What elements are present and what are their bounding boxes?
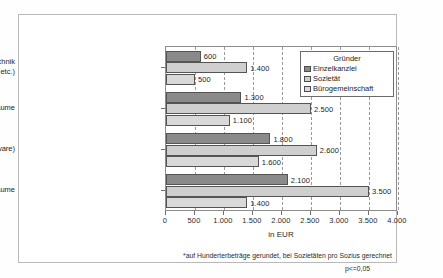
- bar-value-label: 500: [198, 75, 211, 84]
- x-axis-tick-label: 4.000: [387, 216, 406, 225]
- x-axis-tick-label: 500: [188, 216, 201, 225]
- gridline: [398, 47, 399, 210]
- bar: [166, 62, 247, 73]
- chart-figure: 6001.4005001.3002.5001.1001.8002.6001.60…: [0, 0, 443, 278]
- x-axis-tick: [368, 211, 369, 215]
- bar: [166, 133, 270, 144]
- bar-value-label: 2.500: [314, 105, 333, 114]
- bar: [166, 174, 288, 185]
- legend-swatch-icon-einzelkanzlei: [304, 66, 311, 72]
- footnote: *auf Hunderterbeträge gerundet, bei Sozi…: [165, 252, 410, 259]
- legend-label-einzelkanzlei: Einzelkanzlei: [313, 64, 357, 73]
- x-axis-tick: [194, 211, 195, 215]
- legend-item-sozietaet[interactable]: Sozietät: [304, 74, 390, 83]
- legend: Gründer Einzelkanzlei Sozietät Bürogemei…: [300, 51, 394, 97]
- bar-value-label: 2.600: [320, 146, 339, 155]
- bar-value-label: 3.500: [372, 187, 391, 196]
- category-label-line: EDV-Anlage (Hard- / Software): [0, 144, 15, 154]
- bar-value-label: 600: [204, 52, 217, 61]
- legend-item-buerogemeinschaft[interactable]: Bürogemeinschaft: [304, 84, 390, 93]
- x-axis-tick-label: 0: [163, 216, 167, 225]
- bar: [166, 115, 230, 126]
- significance-note: p<=0,05: [345, 265, 370, 272]
- bar: [166, 197, 247, 208]
- figure-frame: 6001.4005001.3002.5001.1001.8002.6001.60…: [18, 14, 397, 263]
- x-axis-tick-label: 3.500: [358, 216, 377, 225]
- bar: [166, 51, 201, 62]
- x-axis-tick: [310, 211, 311, 215]
- y-axis-tick: [161, 67, 165, 68]
- x-axis-tick: [223, 211, 224, 215]
- x-axis-tick-label: 1.500: [242, 216, 261, 225]
- bar-value-label: 1.600: [262, 158, 281, 167]
- legend-swatch-icon-buerogemeinschaft: [304, 86, 311, 92]
- legend-label-buerogemeinschaft: Bürogemeinschaft: [313, 84, 373, 93]
- bar: [166, 186, 369, 197]
- legend-swatch-icon-sozietaet: [304, 76, 311, 82]
- bar-value-label: 2.100: [291, 176, 310, 185]
- y-axis-tick: [161, 190, 165, 191]
- category-label: Einrichtung Büroräume: [0, 185, 15, 195]
- category-label: Renovierung Büroräume: [0, 103, 15, 113]
- x-axis-tick: [252, 211, 253, 215]
- category-label: sonst. Bürotechnik(Telefon, Kopiergerät …: [0, 57, 15, 77]
- y-axis-tick: [161, 149, 165, 150]
- bar: [166, 74, 195, 85]
- x-axis-tick-label: 2.500: [300, 216, 319, 225]
- x-axis-tick: [281, 211, 282, 215]
- bar-value-label: 1.300: [244, 93, 263, 102]
- bar-value-label: 1.400: [250, 64, 269, 73]
- x-axis-title: in EUR: [165, 230, 397, 239]
- x-axis-tick-label: 3.000: [329, 216, 348, 225]
- bar-value-label: 1.400: [250, 199, 269, 208]
- bar-value-label: 1.100: [233, 116, 252, 125]
- legend-label-sozietaet: Sozietät: [313, 74, 340, 83]
- bar: [166, 156, 259, 167]
- bar-value-label: 1.800: [273, 135, 292, 144]
- x-axis-tick: [397, 211, 398, 215]
- x-axis-tick: [165, 211, 166, 215]
- x-axis-tick: [339, 211, 340, 215]
- bar: [166, 92, 241, 103]
- category-label-line: sonst. Bürotechnik: [0, 57, 15, 67]
- x-axis-tick-label: 2.000: [271, 216, 290, 225]
- bar: [166, 103, 311, 114]
- x-axis-tick-label: 1.000: [213, 216, 232, 225]
- category-label-line: (Telefon, Kopiergerät etc.): [0, 67, 15, 77]
- y-axis-tick: [161, 108, 165, 109]
- legend-title: Gründer: [304, 54, 390, 63]
- category-label-line: Einrichtung Büroräume: [0, 185, 15, 195]
- bar: [166, 145, 317, 156]
- category-label: EDV-Anlage (Hard- / Software): [0, 144, 15, 154]
- legend-item-einzelkanzlei[interactable]: Einzelkanzlei: [304, 64, 390, 73]
- category-label-line: Renovierung Büroräume: [0, 103, 15, 113]
